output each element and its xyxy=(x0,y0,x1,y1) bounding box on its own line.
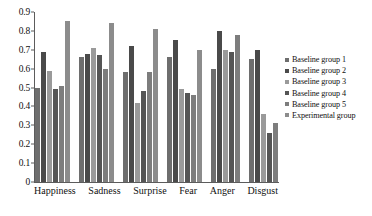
legend-swatch-icon xyxy=(285,91,289,95)
bar-chart: 00.10.20.30.40.50.60.70.80.9 HappinessSa… xyxy=(0,0,372,216)
bar xyxy=(47,71,52,182)
bar xyxy=(85,54,90,182)
legend-item[interactable]: Experimental group xyxy=(285,111,355,120)
bar xyxy=(249,59,254,182)
bar xyxy=(261,114,266,182)
bar xyxy=(191,95,196,182)
bar xyxy=(135,103,140,182)
bar xyxy=(167,57,172,182)
bar xyxy=(255,50,260,182)
x-axis-label: Happiness xyxy=(34,185,76,196)
bar xyxy=(197,50,202,182)
x-axis-label: Disgust xyxy=(247,185,278,196)
bar xyxy=(141,91,146,182)
bar xyxy=(79,57,84,182)
legend-label: Baseline group 4 xyxy=(292,89,346,98)
bar xyxy=(59,86,64,182)
bar xyxy=(41,52,46,182)
bar xyxy=(123,72,128,182)
bar xyxy=(53,89,58,182)
legend-item[interactable]: Baseline group 3 xyxy=(285,77,355,86)
bar xyxy=(65,21,70,182)
bar xyxy=(147,72,152,182)
x-axis-label: Surprise xyxy=(133,185,166,196)
legend-item[interactable]: Baseline group 1 xyxy=(285,55,355,64)
x-axis-label: Sadness xyxy=(88,185,120,196)
bar xyxy=(109,23,114,182)
bar-group xyxy=(166,12,202,182)
bar xyxy=(229,52,234,182)
bar-group xyxy=(78,12,114,182)
bar-group xyxy=(210,12,240,182)
bar-group xyxy=(122,12,158,182)
legend-swatch-icon xyxy=(285,80,289,84)
bar xyxy=(173,40,178,182)
legend-label: Baseline group 3 xyxy=(292,77,346,86)
bar-group xyxy=(248,12,278,182)
bar xyxy=(235,35,240,182)
bar xyxy=(273,123,278,182)
plot-area: 00.10.20.30.40.50.60.70.80.9 xyxy=(34,12,278,182)
legend-label: Baseline group 1 xyxy=(292,55,346,64)
legend-item[interactable]: Baseline group 4 xyxy=(285,89,355,98)
bar xyxy=(103,69,108,182)
bar xyxy=(223,50,228,182)
bar xyxy=(179,89,184,182)
legend-label: Baseline group 2 xyxy=(292,66,346,75)
bar xyxy=(91,48,96,182)
legend-swatch-icon xyxy=(285,69,289,73)
bar-groups xyxy=(34,12,278,182)
legend-swatch-icon xyxy=(285,113,289,117)
bar xyxy=(185,93,190,182)
legend-item[interactable]: Baseline group 2 xyxy=(285,66,355,75)
legend-label: Experimental group xyxy=(292,111,355,120)
bar xyxy=(217,31,222,182)
bar xyxy=(267,133,272,182)
legend-swatch-icon xyxy=(285,58,289,62)
legend-swatch-icon xyxy=(285,102,289,106)
bar xyxy=(35,88,40,182)
x-axis-labels: HappinessSadnessSurpriseFearAngerDisgust xyxy=(34,185,278,196)
bar xyxy=(211,69,216,182)
x-axis-label: Anger xyxy=(210,185,235,196)
x-axis-line xyxy=(34,182,279,183)
bar xyxy=(129,46,134,182)
bar xyxy=(97,55,102,182)
legend-item[interactable]: Baseline group 5 xyxy=(285,100,355,109)
x-axis-label: Fear xyxy=(179,185,197,196)
chart-legend: Baseline group 1Baseline group 2Baseline… xyxy=(285,55,355,120)
legend-label: Baseline group 5 xyxy=(292,100,346,109)
bar xyxy=(153,29,158,182)
bar-group xyxy=(34,12,70,182)
